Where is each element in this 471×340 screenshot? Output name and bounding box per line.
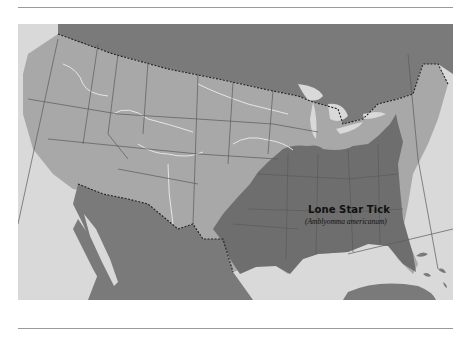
top-rule	[18, 7, 453, 8]
range-map: Lone Star Tick (Amblyomma americanum)	[18, 24, 453, 300]
range-label-subtitle: (Amblyomma americanum)	[305, 217, 387, 226]
map-graphic	[18, 24, 453, 300]
range-label-title: Lone Star Tick	[308, 204, 390, 215]
bottom-rule	[18, 328, 453, 329]
